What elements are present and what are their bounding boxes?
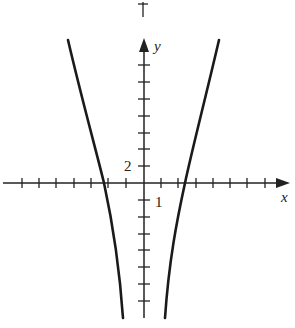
curve-left-branch: [68, 40, 123, 318]
x-axis-arrow-icon: [276, 178, 290, 188]
x-axis-label: x: [280, 189, 288, 205]
top-fragment: [138, 2, 148, 17]
y-axis-arrow-icon: [139, 38, 149, 52]
graph: y x 2 1: [0, 0, 295, 328]
x-scale-label: 1: [155, 194, 163, 210]
y-scale-label: 2: [124, 158, 132, 174]
curve-right-branch: [165, 40, 219, 318]
y-axis-label: y: [152, 38, 161, 54]
